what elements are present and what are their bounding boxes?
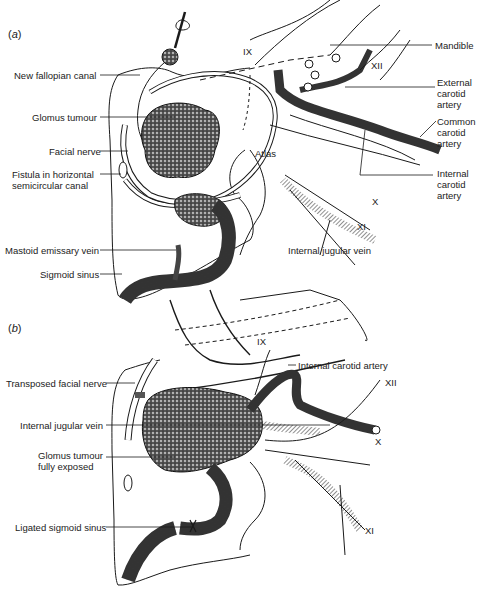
label-nerve-ix-a: IX [243, 46, 252, 57]
label-internal-carotid-artery-b: Internal carotid artery [298, 360, 388, 371]
label-internal-jugular-vein-a: Internal jugular vein [288, 245, 371, 256]
label-sigmoid-sinus: Sigmoid sinus [40, 269, 99, 280]
label-nerve-xii-a: XII [371, 60, 383, 71]
label-nerve-x-a: X [372, 196, 378, 207]
label-nerve-ix-b: IX [257, 336, 266, 347]
label-mastoid-emissary-vein: Mastoid emissary vein [5, 245, 99, 256]
label-int-carotid-line1: Internal [437, 168, 469, 179]
label-ext-carotid-line2: carotid [437, 88, 472, 99]
label-internal-carotid-artery-a: Internal carotid artery [437, 168, 469, 201]
label-fistula-horizontal-canal: Fistula in horizontal semicircular canal [12, 169, 94, 191]
label-fistula-line2: semicircular canal [12, 180, 94, 191]
label-ext-carotid-line1: External [437, 77, 472, 88]
label-nerve-xii-b: XII [385, 377, 397, 388]
label-nerve-x-b: X [375, 436, 381, 447]
label-facial-nerve: Facial nerve [49, 146, 101, 157]
label-glomus-b-line2: fully exposed [38, 461, 103, 472]
label-common-carotid-line1: Common [437, 116, 476, 127]
label-int-carotid-line3: artery [437, 190, 469, 201]
panel-b-tag: (b) [8, 322, 21, 334]
label-internal-jugular-vein-b: Internal jugular vein [20, 420, 103, 431]
label-glomus-tumour: Glomus tumour [32, 112, 97, 123]
label-common-carotid-line2: carotid [437, 127, 476, 138]
label-nerve-xi-a: XI [357, 221, 366, 232]
label-mandible: Mandible [435, 40, 474, 51]
label-fistula-line1: Fistula in horizontal [12, 169, 94, 180]
label-glomus-b-line1: Glomus tumour [38, 450, 103, 461]
label-glomus-tumour-fully-exposed: Glomus tumour fully exposed [38, 450, 103, 472]
label-ext-carotid-line3: artery [437, 99, 472, 110]
label-common-carotid-line3: artery [437, 138, 476, 149]
anatomical-figure: (a) (b) New fallopian canal Glomus tumou… [0, 0, 483, 592]
label-external-carotid-artery: External carotid artery [437, 77, 472, 110]
panel-b-drawing [112, 290, 380, 585]
panel-a-tag: (a) [8, 28, 21, 40]
illustration-canvas [0, 0, 483, 592]
label-nerve-xi-b: XI [365, 525, 374, 536]
label-new-fallopian-canal: New fallopian canal [14, 70, 96, 81]
label-transposed-facial-nerve: Transposed facial nerve [6, 378, 107, 389]
label-common-carotid-artery: Common carotid artery [437, 116, 476, 149]
label-ligated-sigmoid-sinus: Ligated sigmoid sinus [15, 522, 106, 533]
label-atlas: Atlas [255, 148, 276, 159]
label-int-carotid-line2: carotid [437, 179, 469, 190]
